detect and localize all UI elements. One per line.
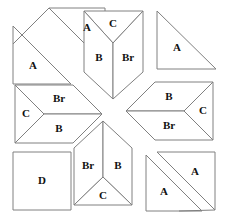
quilt-block-canvas: AACBBrACBrBBBrCDBrBCAA bbox=[0, 0, 228, 221]
quilt-block-diagram: AACBBrACBrBBBrCDBrBCAA bbox=[0, 0, 228, 221]
piece-c-mid-left-label: C bbox=[22, 107, 30, 119]
piece-a-top-right bbox=[157, 11, 216, 69]
piece-br-bottom-center-label: Br bbox=[82, 159, 94, 171]
piece-b-mid-right-label: B bbox=[165, 90, 173, 102]
piece-a-top-right-label: A bbox=[173, 41, 181, 53]
piece-b-mid-left-label: B bbox=[55, 122, 63, 134]
piece-a-top-left-lower-label: A bbox=[29, 59, 37, 71]
piece-br-mid-right-label: Br bbox=[163, 119, 175, 131]
piece-a-top-left-upper-label: A bbox=[83, 21, 91, 33]
piece-a-bottom-right-lower-label: A bbox=[160, 185, 168, 197]
piece-b-top-center-label: B bbox=[95, 51, 103, 63]
piece-c-bottom-center-label: C bbox=[99, 189, 107, 201]
sash-upper-left-edge bbox=[13, 8, 49, 44]
piece-br-top-center-label: Br bbox=[122, 51, 134, 63]
piece-c-mid-right-label: C bbox=[199, 104, 207, 116]
piece-br-mid-left-label: Br bbox=[53, 92, 65, 104]
piece-c-top-center-label: C bbox=[109, 17, 117, 29]
piece-d-bottom-left-label: D bbox=[38, 174, 46, 186]
piece-a-bottom-right-upper-label: A bbox=[191, 165, 199, 177]
piece-b-bottom-center-label: B bbox=[114, 159, 122, 171]
